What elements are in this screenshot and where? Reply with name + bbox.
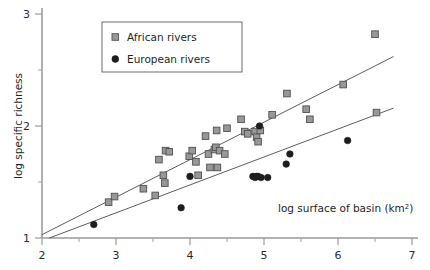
y-tick-label-3: 3 bbox=[23, 8, 30, 21]
data-point-african bbox=[213, 127, 220, 134]
data-point-african bbox=[189, 147, 196, 154]
data-point-african bbox=[238, 116, 245, 123]
data-point-european bbox=[256, 123, 263, 130]
data-point-african bbox=[195, 172, 202, 179]
legend-marker-european bbox=[112, 56, 119, 63]
x-tick-label-4: 4 bbox=[187, 249, 194, 262]
x-tick-label-3: 3 bbox=[113, 249, 120, 262]
x-tick-label-2: 2 bbox=[39, 249, 46, 262]
data-point-european bbox=[91, 221, 98, 228]
european-fit bbox=[49, 108, 393, 238]
y-axis-title: log specific richness bbox=[12, 73, 24, 179]
data-point-african bbox=[193, 159, 200, 166]
data-point-african bbox=[202, 133, 209, 140]
x-tick-label-5: 5 bbox=[261, 249, 268, 262]
data-point-european bbox=[344, 137, 351, 144]
data-point-african bbox=[303, 106, 310, 113]
data-point-african bbox=[244, 131, 251, 138]
x-axis-title: log surface of basin (km2) bbox=[278, 202, 413, 214]
data-point-african bbox=[152, 192, 159, 199]
data-point-african bbox=[214, 164, 221, 171]
data-point-european bbox=[178, 204, 185, 211]
data-point-african bbox=[284, 90, 291, 97]
data-point-european bbox=[258, 174, 265, 181]
data-point-african bbox=[373, 109, 380, 116]
data-point-african bbox=[372, 31, 379, 38]
data-point-european bbox=[264, 174, 271, 181]
data-point-african bbox=[221, 151, 228, 158]
legend-label-african: African rivers bbox=[127, 31, 197, 43]
legend-label-european: European rivers bbox=[127, 53, 210, 65]
data-point-african bbox=[269, 112, 276, 119]
data-point-european bbox=[283, 161, 290, 168]
data-point-african bbox=[111, 193, 118, 200]
data-point-african bbox=[255, 138, 262, 145]
data-point-african bbox=[224, 125, 231, 132]
data-point-african bbox=[166, 148, 173, 155]
y-tick-label-2: 2 bbox=[23, 120, 30, 133]
scatter-plot-figure: 234567123log specific richnesslog surfac… bbox=[0, 0, 430, 270]
data-point-european bbox=[287, 151, 294, 158]
y-tick-label-1: 1 bbox=[23, 232, 30, 245]
data-point-african bbox=[340, 81, 347, 88]
legend-marker-african bbox=[112, 34, 119, 41]
data-point-african bbox=[156, 156, 163, 163]
data-point-african bbox=[207, 164, 214, 171]
data-point-african bbox=[307, 116, 314, 123]
x-tick-label-6: 6 bbox=[335, 249, 342, 262]
plot-canvas: 234567123log specific richnesslog surfac… bbox=[0, 0, 430, 270]
data-point-african bbox=[160, 172, 167, 179]
data-point-african bbox=[140, 185, 147, 192]
data-point-african bbox=[162, 180, 169, 187]
data-point-european bbox=[187, 173, 194, 180]
x-tick-label-7: 7 bbox=[409, 249, 416, 262]
